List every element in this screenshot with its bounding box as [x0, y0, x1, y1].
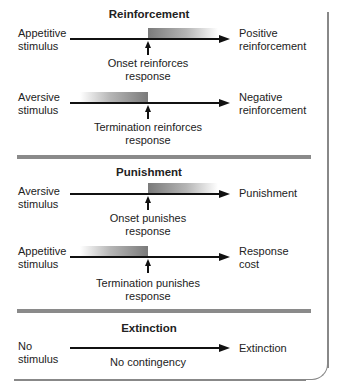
section-divider	[17, 155, 311, 159]
result-label: Negative reinforcement	[239, 91, 334, 116]
arrowhead-right-icon	[219, 344, 230, 352]
arrowhead-right-icon	[219, 190, 230, 198]
response-arrow-up-icon	[145, 41, 151, 55]
arrowhead-right-icon	[219, 35, 230, 43]
result-label: Response cost	[239, 245, 334, 270]
section-title-extinction: Extinction	[49, 322, 249, 334]
timeline-line	[70, 256, 222, 258]
result-label: Extinction	[239, 342, 334, 355]
stimulus-termination-gradient	[80, 246, 148, 256]
timeline-line	[70, 38, 222, 40]
response-arrow-up-icon	[145, 259, 151, 273]
timeline-line	[70, 102, 222, 104]
result-label: Positive reinforcement	[239, 27, 334, 52]
response-caption: Termination reinforces response	[68, 121, 228, 146]
stimulus-label: Aversive stimulus	[18, 185, 78, 210]
frame-border-bottom	[14, 379, 306, 381]
result-label: Punishment	[239, 187, 334, 200]
response-caption: Onset reinforces response	[68, 57, 228, 82]
response-caption: Onset punishes response	[68, 212, 228, 237]
timeline-line	[70, 193, 222, 195]
response-arrow-up-icon	[145, 105, 151, 119]
contingency-caption: No contingency	[68, 356, 228, 369]
response-arrow-up-icon	[145, 196, 151, 210]
stimulus-onset-gradient	[148, 183, 218, 193]
stimulus-label: Aversive stimulus	[18, 91, 78, 116]
stimulus-label: Appetitive stimulus	[18, 27, 78, 52]
response-caption: Termination punishes response	[68, 277, 228, 302]
arrowhead-right-icon	[219, 253, 230, 261]
stimulus-termination-gradient	[80, 92, 148, 102]
frame-border-corner	[305, 357, 328, 380]
timeline-line	[70, 347, 222, 349]
section-title-punishment: Punishment	[49, 166, 249, 178]
arrowhead-right-icon	[219, 99, 230, 107]
section-title-reinforcement: Reinforcement	[49, 8, 249, 20]
stimulus-label: Appetitive stimulus	[18, 245, 78, 270]
stimulus-onset-gradient	[148, 28, 218, 38]
section-divider	[17, 309, 311, 313]
